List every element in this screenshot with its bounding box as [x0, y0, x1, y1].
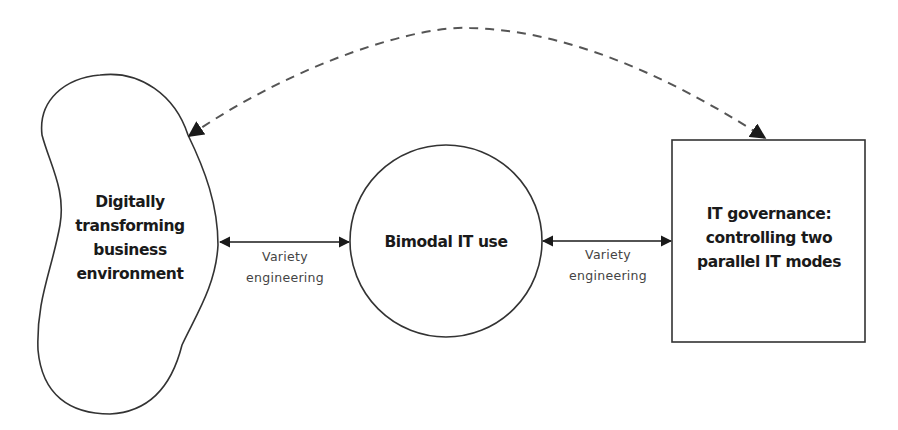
edge-label-environment-bimodal: Variety engineering: [235, 246, 335, 288]
edge-environment-governance-dashed: [189, 28, 765, 138]
governance-label: IT governance: controlling two parallel …: [676, 202, 862, 274]
edge-label-1-line-2: engineering: [235, 267, 335, 288]
environment-label-line-3: business: [55, 238, 205, 262]
environment-label-line-1: Digitally: [55, 190, 205, 214]
bimodal-label-line-1: Bimodal IT use: [366, 230, 526, 254]
edge-label-bimodal-governance: Variety engineering: [558, 244, 658, 286]
environment-label: Digitally transforming business environm…: [55, 190, 205, 286]
edge-label-2-line-2: engineering: [558, 265, 658, 286]
environment-label-line-2: transforming: [55, 214, 205, 238]
environment-label-line-4: environment: [55, 262, 205, 286]
edge-label-1-line-1: Variety: [235, 246, 335, 267]
bimodal-label: Bimodal IT use: [366, 230, 526, 254]
edge-label-2-line-1: Variety: [558, 244, 658, 265]
governance-label-line-1: IT governance:: [676, 202, 862, 226]
governance-label-line-3: parallel IT modes: [676, 250, 862, 274]
governance-label-line-2: controlling two: [676, 226, 862, 250]
